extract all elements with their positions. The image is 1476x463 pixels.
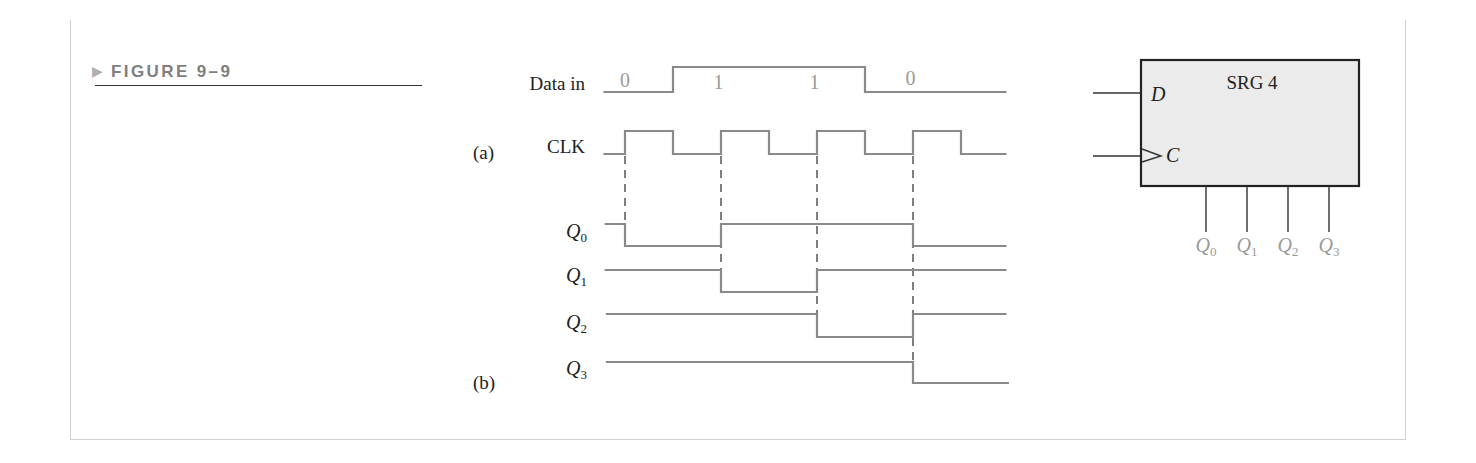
input-label-d: D [1150, 83, 1166, 105]
input-label-c: C [1166, 144, 1180, 166]
part-label-b: (b) [473, 372, 495, 394]
data-bit-label: 0 [906, 67, 916, 89]
waveform-q2 [606, 314, 1007, 337]
data-bit-label: 0 [620, 69, 630, 91]
output-label-q3: Q3 [1319, 234, 1340, 259]
output-label-q2: Q2 [1278, 234, 1299, 259]
data-bit-label: 1 [714, 71, 724, 93]
waveform-data-in [603, 67, 1006, 92]
figure-canvas: (a) (b) Data in CLK Q0 Q1 Q2 Q3 0 1 1 0 … [0, 0, 1476, 463]
signal-label-q0: Q0 [566, 220, 587, 245]
signal-label-q2: Q2 [566, 311, 587, 336]
signal-label-clk: CLK [547, 136, 585, 157]
output-label-q1: Q1 [1237, 234, 1258, 259]
waveform-q0 [605, 224, 1007, 246]
signal-label-data-in: Data in [530, 73, 586, 94]
register-name: SRG 4 [1226, 72, 1278, 93]
signal-label-q3: Q3 [566, 357, 587, 382]
waveform-q1 [605, 270, 1007, 292]
data-bit-label: 1 [810, 71, 820, 93]
timing-diagram: (a) (b) Data in CLK Q0 Q1 Q2 Q3 0 1 1 0 [473, 67, 1009, 394]
signal-label-q1: Q1 [566, 264, 587, 289]
waveform-q3 [606, 362, 1009, 383]
part-label-a: (a) [473, 142, 494, 164]
output-label-q0: Q0 [1196, 234, 1217, 259]
waveform-clk [603, 131, 1006, 154]
shift-register-symbol: SRG 4 D C Q0 Q1 Q2 Q3 [1093, 60, 1359, 259]
